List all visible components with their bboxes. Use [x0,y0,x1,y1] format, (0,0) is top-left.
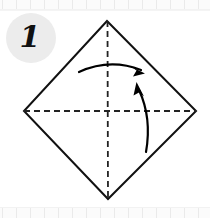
step-number-badge: 1 [6,13,56,63]
origami-step-diagram: 1 [0,0,210,220]
step-number-label: 1 [20,22,41,52]
ruler-bottom-ticks [0,208,210,218]
ruler-bottom [0,207,210,218]
